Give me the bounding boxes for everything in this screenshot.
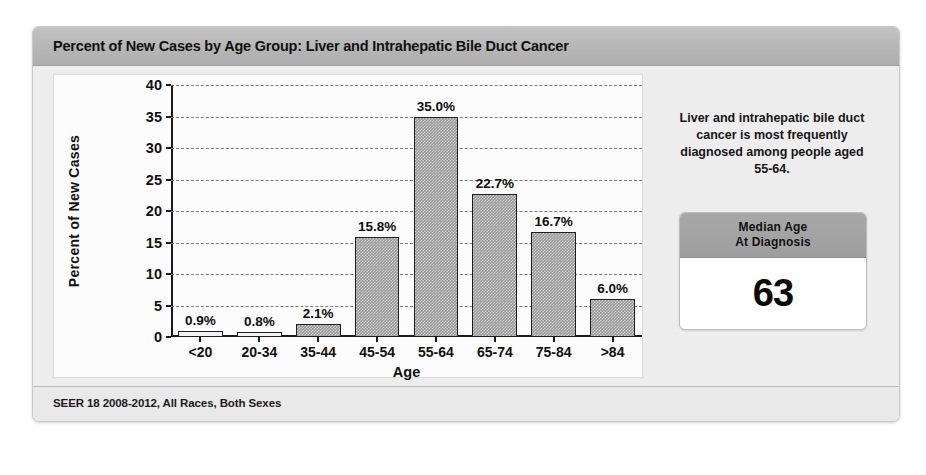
- stat-title-line2: At Diagnosis: [735, 235, 811, 250]
- y-tick-label: 35: [146, 108, 162, 124]
- card-body: Percent of New Cases Age 051015202530354…: [33, 66, 899, 386]
- bar-value-label: 35.0%: [417, 99, 455, 114]
- bar[interactable]: [472, 194, 517, 337]
- bar-group: 35.0%55-64: [407, 85, 466, 337]
- y-tick-label: 40: [146, 77, 162, 93]
- x-tick-label: <20: [189, 344, 213, 360]
- y-tick-label: 10: [146, 266, 162, 282]
- x-tick-mark: [376, 337, 378, 342]
- x-tick-label: 35-44: [300, 344, 336, 360]
- y-tick-label: 0: [154, 329, 162, 345]
- x-tick-mark: [494, 337, 496, 342]
- side-panel: Liver and intrahepatic bile duct cancer …: [665, 88, 879, 378]
- bar-group: 2.1%35-44: [289, 85, 348, 337]
- x-tick-mark: [199, 337, 201, 342]
- bar-value-label: 6.0%: [597, 281, 628, 296]
- stat-title-line1: Median Age: [739, 220, 808, 235]
- y-tick-label: 5: [154, 297, 162, 313]
- x-tick-mark: [435, 337, 437, 342]
- bar[interactable]: [355, 237, 400, 337]
- x-tick-mark: [612, 337, 614, 342]
- x-tick-label: 45-54: [359, 344, 395, 360]
- x-tick-mark: [553, 337, 555, 342]
- bar[interactable]: [531, 232, 576, 337]
- bar-value-label: 2.1%: [303, 306, 334, 321]
- y-tick-label: 15: [146, 234, 162, 250]
- bar-group: 22.7%65-74: [465, 85, 524, 337]
- card-header-band: Percent of New Cases by Age Group: Liver…: [33, 27, 899, 66]
- bar-group: 6.0%>84: [583, 85, 642, 337]
- bars-layer: 0.9%<200.8%20-342.1%35-4415.8%45-5435.0%…: [171, 85, 642, 337]
- x-tick-label: 55-64: [418, 344, 454, 360]
- bar-group: 0.9%<20: [171, 85, 230, 337]
- median-age-stat-box: Median Age At Diagnosis 63: [679, 212, 867, 330]
- bar-value-label: 16.7%: [535, 214, 573, 229]
- bar[interactable]: [590, 299, 635, 337]
- stat-box-header: Median Age At Diagnosis: [680, 213, 866, 258]
- bar[interactable]: [414, 117, 459, 338]
- x-tick-label: >84: [601, 344, 625, 360]
- bar-group: 15.8%45-54: [348, 85, 407, 337]
- x-tick-label: 20-34: [241, 344, 277, 360]
- bar-value-label: 22.7%: [476, 176, 514, 191]
- bar-value-label: 0.8%: [244, 314, 275, 329]
- x-tick-label: 65-74: [477, 344, 513, 360]
- source-note: SEER 18 2008-2012, All Races, Both Sexes: [53, 397, 281, 409]
- y-tick-label: 30: [146, 140, 162, 156]
- bar-value-label: 0.9%: [185, 313, 216, 328]
- bar-chart-panel: Percent of New Cases Age 051015202530354…: [53, 74, 643, 378]
- y-axis-title: Percent of New Cases: [66, 85, 86, 337]
- infographic-card: Percent of New Cases by Age Group: Liver…: [32, 26, 900, 422]
- x-axis-title: Age: [171, 364, 642, 380]
- plot-area: 0510152025303540 0.9%<200.8%20-342.1%35-…: [171, 85, 642, 337]
- screenshot-canvas: Percent of New Cases by Age Group: Liver…: [0, 0, 926, 475]
- bar-value-label: 15.8%: [358, 219, 396, 234]
- bar-group: 0.8%20-34: [230, 85, 289, 337]
- y-tick-label: 25: [146, 171, 162, 187]
- stat-value: 63: [680, 257, 866, 329]
- page-title: Percent of New Cases by Age Group: Liver…: [53, 38, 569, 54]
- y-tick-label: 20: [146, 203, 162, 219]
- side-note-text: Liver and intrahepatic bile duct cancer …: [673, 110, 871, 178]
- x-tick-mark: [258, 337, 260, 342]
- bar-group: 16.7%75-84: [524, 85, 583, 337]
- card-footer: SEER 18 2008-2012, All Races, Both Sexes: [33, 386, 899, 421]
- x-tick-mark: [317, 337, 319, 342]
- bar[interactable]: [296, 324, 341, 337]
- x-tick-label: 75-84: [536, 344, 572, 360]
